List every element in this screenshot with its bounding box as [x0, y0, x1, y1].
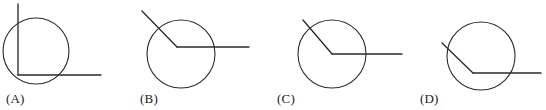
- panel-d: (D): [408, 0, 546, 110]
- panel-b: (B): [136, 0, 272, 110]
- circle-b: [147, 20, 215, 88]
- panel-label-a: (A): [6, 92, 25, 105]
- panel-label-d: (D): [420, 92, 439, 105]
- panel-a: (A): [0, 0, 136, 110]
- panel-label-b: (B): [140, 92, 158, 105]
- panel-label-c: (C): [277, 92, 295, 105]
- circle-d: [447, 22, 515, 90]
- panel-c: (C): [272, 0, 408, 110]
- geometry-figure-set: (A) (B) (C) (D): [0, 0, 546, 110]
- ray-b-upper-left: [142, 11, 177, 47]
- circle-a: [3, 18, 69, 84]
- ray-c-upper-left: [303, 20, 332, 54]
